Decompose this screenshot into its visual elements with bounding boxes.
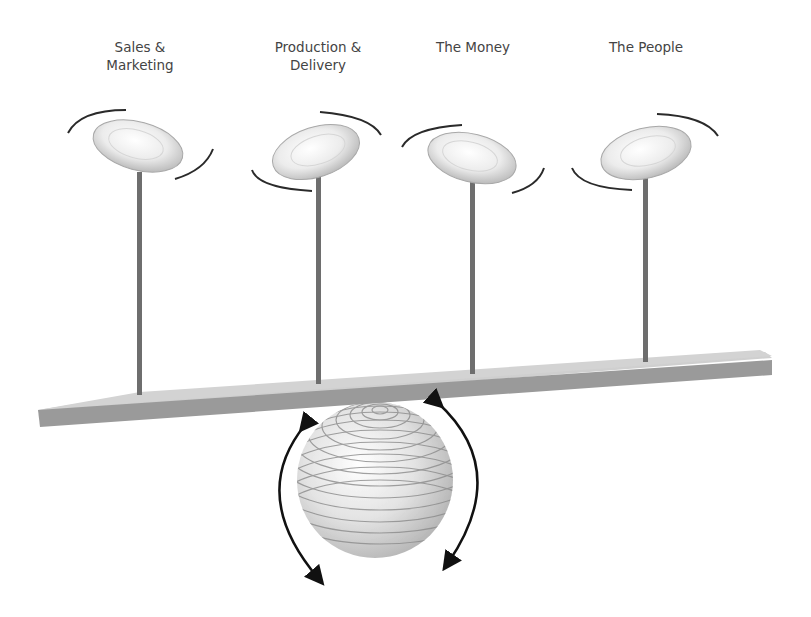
plate-icon: [87, 111, 188, 181]
pole-the-people: [643, 175, 648, 363]
diagram-illustration: [0, 0, 811, 617]
plate-the-people: [572, 114, 718, 190]
plate-icon: [595, 118, 696, 189]
swoosh-icon: [512, 168, 544, 193]
poles: [137, 172, 648, 395]
plate-icon: [265, 114, 366, 189]
pole-production-delivery: [316, 175, 321, 383]
plate-sales-marketing: [68, 110, 213, 181]
plate-icon: [423, 124, 522, 192]
pole-the-money: [470, 180, 475, 375]
balance-ball: [280, 401, 480, 558]
pole-sales-marketing: [137, 172, 142, 395]
plate-the-money: [402, 124, 544, 193]
